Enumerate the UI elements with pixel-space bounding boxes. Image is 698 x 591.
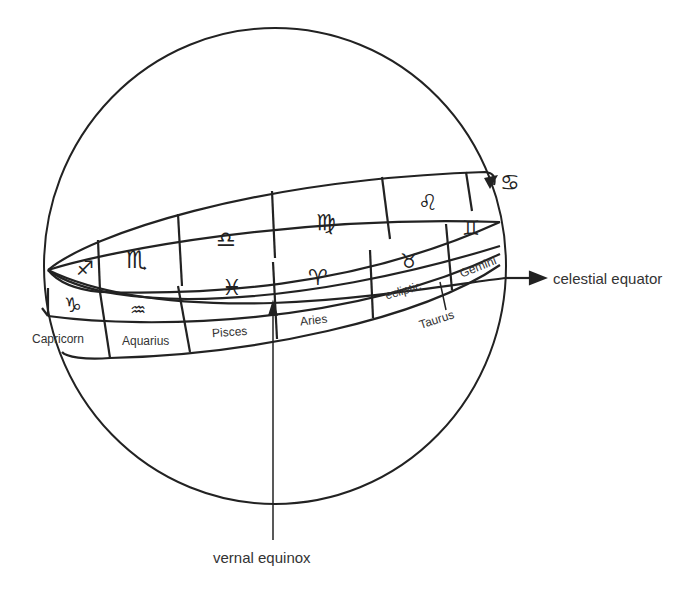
celestial-sphere	[44, 28, 506, 504]
aries-label: Aries	[299, 312, 328, 329]
pisces-label: Pisces	[212, 324, 248, 340]
capricorn-symbol: ♑	[64, 293, 82, 317]
libra-symbol: ♎	[216, 227, 236, 252]
arrow-cancer-icon	[484, 175, 498, 189]
ecliptic-label: ecliptic	[383, 279, 422, 303]
arrow-right-icon	[530, 272, 545, 284]
leo-symbol: ♌	[418, 190, 438, 215]
aquarius-label: Aquarius	[122, 334, 169, 348]
virgo-symbol: ♍	[316, 210, 336, 235]
taurus-label: Taurus	[417, 307, 456, 331]
vernal-equinox-label: vernal equinox	[213, 549, 311, 566]
aquarius-symbol: ♒	[130, 299, 146, 320]
celestial-equator-label: celestial equator	[553, 270, 662, 287]
pisces-symbol: ♓	[222, 275, 242, 300]
gemini-symbol: ♊	[462, 216, 480, 240]
celestial-sphere-diagram: ♐ ♏ ♎ ♍ ♌ ♋ ♑ ♒ ♓ ♈ ♉ ♊ Capricorn Aquari…	[0, 0, 698, 591]
capricorn-label: Capricorn	[32, 332, 84, 346]
scorpio-symbol: ♏	[126, 246, 148, 274]
taurus-symbol: ♉	[400, 249, 418, 273]
sagittarius-symbol: ♐	[76, 256, 94, 280]
cancer-symbol: ♋	[500, 170, 520, 195]
aries-symbol: ♈	[308, 265, 328, 290]
